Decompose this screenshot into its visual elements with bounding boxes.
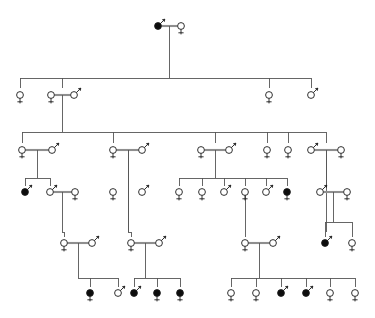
open-circle-icon xyxy=(349,240,356,247)
individual-female-unaffected[interactable] xyxy=(61,240,68,252)
individual-male-unaffected[interactable] xyxy=(317,185,327,195)
union-connector xyxy=(53,192,71,232)
individual-male-unaffected[interactable] xyxy=(226,143,236,153)
individual-male-unaffected[interactable] xyxy=(71,88,81,98)
open-circle-icon xyxy=(176,189,183,196)
individual-male-unaffected[interactable] xyxy=(115,286,125,296)
individual-female-unaffected[interactable] xyxy=(344,189,351,201)
individual-male-affected[interactable] xyxy=(155,19,165,29)
individual-female-unaffected[interactable] xyxy=(48,92,55,104)
open-circle-icon xyxy=(128,240,135,247)
individual-male-unaffected[interactable] xyxy=(270,236,280,246)
open-circle-icon xyxy=(48,92,55,99)
open-circle-icon xyxy=(221,189,228,196)
mars-arrow-head-icon xyxy=(148,185,149,188)
union-connector xyxy=(134,243,155,278)
filled-circle-icon xyxy=(278,290,285,297)
filled-circle-icon xyxy=(284,189,291,196)
individual-female-unaffected[interactable] xyxy=(228,290,235,302)
union-lines-layer xyxy=(25,26,343,278)
individual-female-unaffected[interactable] xyxy=(327,290,334,302)
individual-male-unaffected[interactable] xyxy=(308,88,318,98)
sibship-connector xyxy=(20,78,311,88)
mars-arrow-head-icon xyxy=(140,286,141,289)
open-circle-icon xyxy=(263,189,270,196)
individual-female-affected[interactable] xyxy=(87,290,94,302)
individual-male-affected[interactable] xyxy=(131,286,141,296)
open-circle-icon xyxy=(317,189,324,196)
individual-female-unaffected[interactable] xyxy=(19,147,26,159)
open-circle-icon xyxy=(110,189,117,196)
open-circle-icon xyxy=(338,147,345,154)
union-connector xyxy=(161,26,177,78)
open-circle-icon xyxy=(266,92,273,99)
individual-female-unaffected[interactable] xyxy=(17,92,24,104)
individual-female-unaffected[interactable] xyxy=(178,23,185,35)
individual-female-unaffected[interactable] xyxy=(285,147,292,159)
individual-male-unaffected[interactable] xyxy=(263,185,273,195)
individual-female-affected[interactable] xyxy=(154,290,161,302)
sibship-connector xyxy=(179,178,287,186)
mars-arrow-head-icon xyxy=(331,236,332,239)
individual-male-unaffected[interactable] xyxy=(221,185,231,195)
mars-arrow-head-icon xyxy=(230,185,231,188)
union-connector xyxy=(116,150,138,232)
mars-arrow-head-icon xyxy=(312,286,313,289)
individual-female-affected[interactable] xyxy=(177,290,184,302)
individual-male-unaffected[interactable] xyxy=(139,143,149,153)
individual-female-unaffected[interactable] xyxy=(198,147,205,159)
individual-female-unaffected[interactable] xyxy=(253,290,260,302)
mars-arrow-head-icon xyxy=(235,143,236,146)
individual-female-unaffected[interactable] xyxy=(199,189,206,201)
individual-male-unaffected[interactable] xyxy=(156,236,166,246)
mars-arrow-head-icon xyxy=(124,286,125,289)
open-circle-icon xyxy=(264,147,271,154)
union-connector xyxy=(204,150,225,178)
individual-female-unaffected[interactable] xyxy=(110,189,117,201)
individual-female-unaffected[interactable] xyxy=(352,290,359,302)
open-circle-icon xyxy=(110,147,117,154)
open-circle-icon xyxy=(71,92,78,99)
individual-female-unaffected[interactable] xyxy=(128,240,135,252)
individual-female-unaffected[interactable] xyxy=(349,240,356,252)
open-circle-icon xyxy=(327,290,334,297)
open-circle-icon xyxy=(344,189,351,196)
individual-male-affected[interactable] xyxy=(322,236,332,246)
individual-female-unaffected[interactable] xyxy=(176,189,183,201)
individual-female-unaffected[interactable] xyxy=(72,189,79,201)
open-circle-icon xyxy=(242,189,249,196)
individual-female-unaffected[interactable] xyxy=(338,147,345,159)
individual-male-affected[interactable] xyxy=(278,286,288,296)
individual-female-unaffected[interactable] xyxy=(266,92,273,104)
open-circle-icon xyxy=(352,290,359,297)
union-connector xyxy=(54,95,70,132)
mars-arrow-head-icon xyxy=(279,236,280,239)
individual-male-unaffected[interactable] xyxy=(49,143,59,153)
union-connector xyxy=(248,243,269,278)
filled-circle-icon xyxy=(154,290,161,297)
individual-male-unaffected[interactable] xyxy=(89,236,99,246)
filled-circle-icon xyxy=(87,290,94,297)
individual-female-unaffected[interactable] xyxy=(110,147,117,159)
individual-male-unaffected[interactable] xyxy=(139,185,149,195)
individual-female-affected[interactable] xyxy=(284,189,291,201)
individual-male-affected[interactable] xyxy=(22,185,32,195)
sibship-connector xyxy=(128,232,131,237)
individual-female-unaffected[interactable] xyxy=(242,240,249,252)
filled-circle-icon xyxy=(22,189,29,196)
filled-circle-icon xyxy=(131,290,138,297)
filled-circle-icon xyxy=(155,23,162,30)
individual-male-unaffected[interactable] xyxy=(47,185,57,195)
individual-male-unaffected[interactable] xyxy=(308,143,318,153)
individual-female-unaffected[interactable] xyxy=(264,147,271,159)
open-circle-icon xyxy=(308,92,315,99)
sibship-lines-layer xyxy=(20,78,355,287)
open-circle-icon xyxy=(199,189,206,196)
individual-male-affected[interactable] xyxy=(303,286,313,296)
individual-female-unaffected[interactable] xyxy=(242,189,249,201)
mars-arrow-head-icon xyxy=(287,286,288,289)
sibship-connector xyxy=(62,232,64,237)
mars-arrow-head-icon xyxy=(56,185,57,188)
mars-arrow-head-icon xyxy=(165,236,166,239)
mars-arrow-head-icon xyxy=(98,236,99,239)
